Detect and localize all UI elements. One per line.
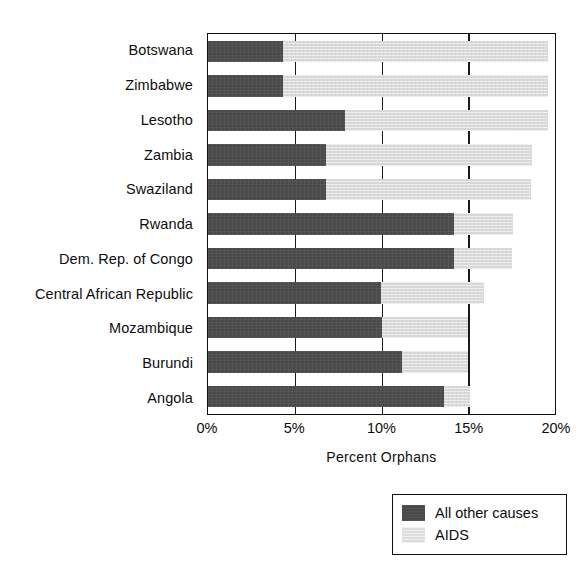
stacked-bar (208, 75, 548, 96)
bar-segment-all-other-causes (208, 213, 454, 234)
stacked-bar (208, 282, 484, 303)
bar-row (208, 34, 555, 69)
bar-segment-all-other-causes (208, 41, 283, 62)
orphans-bar-chart: BotswanaZimbabweLesothoZambiaSwazilandRw… (0, 0, 584, 565)
stacked-bar (208, 317, 468, 338)
light-gray-swatch (402, 527, 425, 543)
stacked-bar (208, 386, 470, 407)
y-axis-category-labels: BotswanaZimbabweLesothoZambiaSwazilandRw… (0, 33, 200, 415)
bar-row (208, 310, 555, 345)
bar-segment-aids (345, 110, 548, 131)
bar-row (208, 345, 555, 380)
bar-row (208, 241, 555, 276)
bar-segment-aids (402, 351, 468, 372)
bar-segment-aids (326, 144, 532, 165)
stacked-bar (208, 179, 531, 200)
x-axis-tick-label: 10% (367, 420, 396, 436)
stacked-bar (208, 248, 512, 269)
bar-segment-aids (454, 248, 511, 269)
bar-segment-aids (444, 386, 470, 407)
bar-row (208, 172, 555, 207)
bar-row (208, 103, 555, 138)
bar-segment-aids (382, 317, 469, 338)
category-label: Burundi (0, 346, 200, 381)
category-label: Botswana (0, 33, 200, 68)
bar-segment-all-other-causes (208, 144, 326, 165)
bar-segment-aids (326, 179, 531, 200)
bar-segment-aids (283, 41, 548, 62)
bar-segment-all-other-causes (208, 179, 326, 200)
category-label: Angola (0, 380, 200, 415)
legend-item-all-other-causes: All other causes (402, 502, 557, 524)
bar-row (208, 276, 555, 311)
plot-area (207, 33, 556, 415)
category-label: Central African Republic (0, 276, 200, 311)
category-label: Mozambique (0, 311, 200, 346)
bar-segment-all-other-causes (208, 351, 402, 372)
x-axis-tick-labels: 0%5%10%15%20% (207, 420, 556, 444)
category-label: Lesotho (0, 102, 200, 137)
category-label: Zambia (0, 137, 200, 172)
category-label: Dem. Rep. of Congo (0, 241, 200, 276)
legend-label: All other causes (435, 505, 538, 521)
stacked-bar (208, 144, 532, 165)
x-axis-tick-label: 0% (197, 420, 218, 436)
dark-gray-swatch (402, 505, 425, 521)
bar-segment-all-other-causes (208, 317, 382, 338)
stacked-bar (208, 213, 513, 234)
bar-segment-all-other-causes (208, 110, 345, 131)
bar-rows (208, 34, 555, 414)
bar-row (208, 379, 555, 414)
legend-label: AIDS (435, 527, 469, 543)
stacked-bar (208, 110, 548, 131)
category-label: Swaziland (0, 172, 200, 207)
category-label: Rwanda (0, 207, 200, 242)
bar-segment-all-other-causes (208, 386, 444, 407)
stacked-bar (208, 41, 548, 62)
bar-segment-aids (283, 75, 548, 96)
bar-segment-all-other-causes (208, 248, 454, 269)
x-axis-tick-label: 5% (284, 420, 305, 436)
x-axis-tick-label: 15% (454, 420, 483, 436)
bar-segment-all-other-causes (208, 282, 381, 303)
x-axis-tick-label: 20% (541, 420, 570, 436)
legend-item-aids: AIDS (402, 524, 557, 546)
bar-row (208, 69, 555, 104)
bar-row (208, 207, 555, 242)
category-label: Zimbabwe (0, 68, 200, 103)
bar-segment-all-other-causes (208, 75, 283, 96)
chart-legend: All other causes AIDS (392, 494, 567, 555)
bar-row (208, 138, 555, 173)
stacked-bar (208, 351, 468, 372)
bar-segment-aids (381, 282, 483, 303)
x-axis-title: Percent Orphans (207, 449, 556, 465)
bar-segment-aids (454, 213, 513, 234)
